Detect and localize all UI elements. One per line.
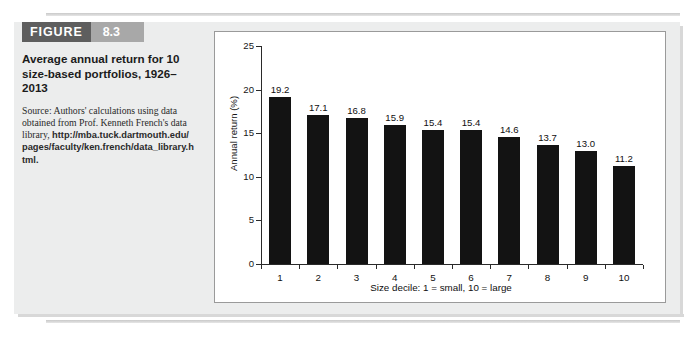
bar-value-label: 19.2 <box>262 84 298 95</box>
y-axis-tick-label: 25 <box>224 40 254 51</box>
chart-panel: Annual return (%) 051015202519.2117.1216… <box>214 31 666 303</box>
bar-value-label: 17.1 <box>300 102 336 113</box>
bar <box>269 97 291 264</box>
bar <box>575 151 597 264</box>
figure-shadow-right <box>680 26 683 317</box>
y-axis-tick-label: 0 <box>224 258 254 269</box>
y-axis-tick-label: 5 <box>224 214 254 225</box>
bar <box>613 166 635 264</box>
bar-value-label: 15.9 <box>377 112 413 123</box>
y-axis-tick <box>256 177 261 178</box>
figure-page: FIGURE 8.3 Average annual return for 10 … <box>0 0 698 338</box>
caption-column: FIGURE 8.3 Average annual return for 10 … <box>22 22 204 166</box>
x-axis-tick <box>452 265 453 269</box>
bar <box>346 118 368 264</box>
x-axis-tick <box>376 265 377 269</box>
plot-area: 051015202519.2117.1216.8315.9415.4515.46… <box>261 46 643 264</box>
figure-shadow-bottom <box>18 314 684 317</box>
bar-value-label: 13.0 <box>568 138 604 149</box>
x-axis-tick <box>528 265 529 269</box>
bottom-rule <box>46 320 680 323</box>
y-axis-tick <box>256 46 261 47</box>
y-axis-tick-label: 15 <box>224 127 254 138</box>
plot-wrapper: Annual return (%) 051015202519.2117.1216… <box>215 32 665 302</box>
x-axis-tick <box>414 265 415 269</box>
bar-value-label: 13.7 <box>530 132 566 143</box>
bar <box>384 125 406 264</box>
x-axis-title: Size decile: 1 = small, 10 = large <box>215 282 667 293</box>
bar-value-label: 16.8 <box>339 105 375 116</box>
y-axis-tick <box>256 133 261 134</box>
x-axis-tick <box>643 265 644 269</box>
figure-source: Source: Authors' calculations using data… <box>22 105 194 166</box>
y-axis-tick-label: 10 <box>224 171 254 182</box>
bar-value-label: 11.2 <box>606 153 642 164</box>
y-axis-line <box>261 46 262 264</box>
bar <box>498 137 520 264</box>
bar <box>422 130 444 264</box>
x-axis-tick <box>261 265 262 269</box>
bar <box>537 145 559 264</box>
bar-value-label: 14.6 <box>491 124 527 135</box>
bar <box>460 130 482 264</box>
figure-tag-number: 8.3 <box>91 22 144 42</box>
bar-value-label: 15.4 <box>415 117 451 128</box>
y-axis-tick <box>256 90 261 91</box>
x-axis-tick <box>567 265 568 269</box>
top-rule <box>46 13 680 16</box>
y-axis-tick <box>256 220 261 221</box>
y-axis-tick-label: 20 <box>224 84 254 95</box>
figure-tag: FIGURE 8.3 <box>22 22 144 42</box>
bar <box>307 115 329 264</box>
figure-tag-word: FIGURE <box>22 22 91 42</box>
figure-title: Average annual return for 10 size-based … <box>22 52 192 96</box>
x-axis-tick <box>490 265 491 269</box>
bar-value-label: 15.4 <box>453 117 489 128</box>
x-axis-tick <box>337 265 338 269</box>
x-axis-tick <box>605 265 606 269</box>
x-axis-tick <box>299 265 300 269</box>
